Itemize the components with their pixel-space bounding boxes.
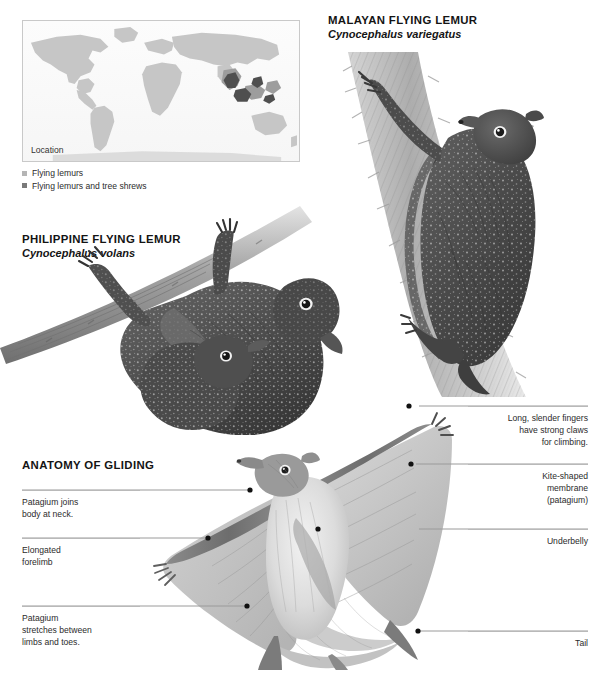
label-rule (468, 631, 588, 632)
label-underbelly: Underbelly (468, 529, 588, 547)
label-kite-membrane: Kite-shaped membrane (patagium) (468, 464, 588, 507)
malayan-lemur-illustration (330, 52, 592, 397)
location-map: Location (22, 20, 300, 162)
label-text: Long, slender fingers have strong claws … (468, 412, 588, 449)
gliding-lemur-illustration (140, 398, 470, 670)
legend-swatch (22, 183, 27, 188)
legend-item-flying-lemurs: Flying lemurs (22, 168, 147, 178)
label-rule (22, 538, 140, 539)
legend-label: Flying lemurs and tree shrews (32, 181, 147, 191)
label-text: Patagium stretches between limbs and toe… (22, 612, 140, 649)
label-text: Elongated forelimb (22, 544, 140, 568)
legend-label: Flying lemurs (32, 168, 83, 178)
label-rule (468, 529, 588, 530)
label-patagium-neck: Patagium joins body at neck. (22, 490, 140, 520)
legend-swatch (22, 171, 27, 176)
malayan-scientific-name: Cynocephalus variegatus (328, 28, 461, 42)
label-text: Patagium joins body at neck. (22, 496, 140, 520)
label-tail: Tail (468, 631, 588, 649)
malayan-common-name: MALAYAN FLYING LEMUR (328, 14, 477, 27)
label-rule (468, 464, 588, 465)
label-rule (468, 406, 588, 407)
map-caption: Location (31, 145, 64, 155)
label-elongated-forelimb: Elongated forelimb (22, 538, 140, 568)
label-rule (22, 606, 140, 607)
encyclopedia-page: Location Flying lemurs Flying lemurs and… (0, 0, 597, 678)
legend-item-lemurs-and-shrews: Flying lemurs and tree shrews (22, 181, 147, 191)
anatomy-heading: ANATOMY OF GLIDING (22, 459, 154, 471)
label-text: Tail (468, 637, 588, 649)
map-frame: Location (22, 20, 300, 162)
label-patagium-stretch: Patagium stretches between limbs and toe… (22, 606, 140, 649)
label-text: Kite-shaped membrane (patagium) (468, 470, 588, 507)
world-map-graphic (23, 21, 299, 161)
label-fingers-claws: Long, slender fingers have strong claws … (468, 406, 588, 449)
label-text: Underbelly (468, 535, 588, 547)
map-legend: Flying lemurs Flying lemurs and tree shr… (22, 168, 147, 194)
label-rule (22, 490, 140, 491)
